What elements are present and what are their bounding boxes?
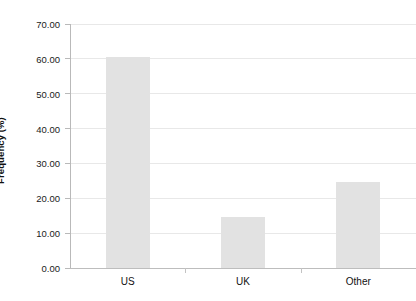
y-axis-title: Frequency (%) [0, 0, 72, 301]
bar-chart: Frequency (%) 0.0010.0020.0030.0040.0050… [0, 0, 416, 301]
y-tick-label: 60.00 [14, 53, 60, 64]
x-tick-mark [185, 268, 186, 273]
bar-other [336, 182, 380, 268]
y-tick-label: 30.00 [14, 158, 60, 169]
y-tick-label: 40.00 [14, 123, 60, 134]
y-tick-label: 70.00 [14, 19, 60, 30]
bar-uk [221, 217, 265, 268]
y-axis-line [70, 24, 71, 269]
x-tick-label: Other [313, 276, 403, 287]
x-tick-label: UK [198, 276, 288, 287]
y-tick-label: 50.00 [14, 88, 60, 99]
x-tick-mark [301, 268, 302, 273]
gridline [70, 24, 416, 25]
y-tick-label: 0.00 [14, 263, 60, 274]
y-tick-label: 10.00 [14, 228, 60, 239]
x-tick-label: US [83, 276, 173, 287]
y-tick-label: 20.00 [14, 193, 60, 204]
bar-us [106, 57, 150, 268]
x-axis-line [70, 268, 416, 269]
